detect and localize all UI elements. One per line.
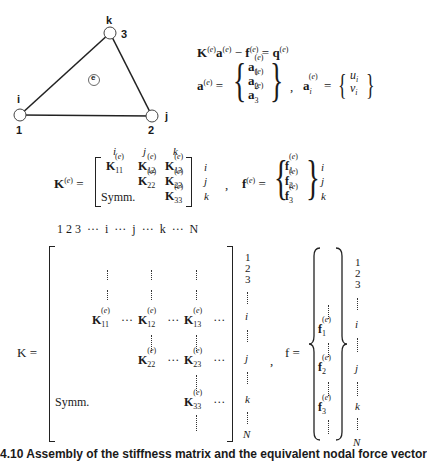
a-e-lhs: a(e) = bbox=[197, 78, 223, 94]
right-brace: } bbox=[270, 58, 283, 104]
K-e-lhs: K(e) = bbox=[54, 176, 84, 192]
node-3-number: 3 bbox=[121, 28, 127, 40]
node-j-letter: j bbox=[165, 110, 168, 122]
K11-entry: K11(e) bbox=[106, 159, 132, 174]
vdots bbox=[357, 418, 359, 430]
vdots bbox=[196, 290, 198, 300]
row-label-N: N bbox=[243, 428, 250, 440]
f-e-vector: f1(e) f2(e) f3(e) bbox=[285, 159, 302, 204]
node-1-number: 1 bbox=[16, 124, 22, 136]
figure-caption: 4.10 Assembly of the stiffness matrix an… bbox=[0, 447, 427, 461]
global-f1: f1(e) bbox=[318, 322, 335, 337]
a-e-vector: a1(e) a2(e) a3(e) bbox=[248, 60, 267, 102]
vdots bbox=[196, 415, 198, 431]
element-label: e bbox=[91, 73, 95, 82]
global-K33: K33(e) ··· bbox=[184, 395, 225, 410]
vdots bbox=[247, 412, 249, 424]
f-lhs: f = bbox=[285, 345, 300, 361]
f-row-label-i: i bbox=[355, 318, 358, 330]
K22-entry: K22(e) bbox=[138, 174, 164, 189]
vdots bbox=[328, 420, 330, 434]
ai-e-vector: uivi bbox=[350, 69, 358, 95]
row-label-i: i bbox=[204, 161, 207, 173]
global-f3: f3(e) bbox=[318, 400, 335, 415]
row-label-j: j bbox=[204, 175, 207, 187]
vdots bbox=[151, 290, 153, 300]
vdots bbox=[196, 270, 198, 280]
global-col-header: 1 2 3 ··· i ··· j ··· k ··· N bbox=[57, 222, 198, 237]
left-brace: { bbox=[338, 69, 347, 99]
global-K22: K22(e) ··· bbox=[138, 353, 179, 368]
node-k-letter: k bbox=[106, 14, 112, 26]
f-row-label-i: i bbox=[321, 161, 324, 173]
row-label-i: i bbox=[245, 310, 248, 322]
right-bracket bbox=[227, 246, 233, 442]
K-lhs: K = bbox=[17, 345, 37, 361]
global-symm-label: Symm. bbox=[55, 395, 89, 410]
vdots bbox=[151, 270, 153, 280]
ai-e-lhs: ai(e) = bbox=[303, 78, 331, 94]
row-label-k: k bbox=[204, 190, 209, 202]
separator-comma: , bbox=[270, 353, 273, 369]
global-K23: K23(e) ··· bbox=[184, 353, 225, 368]
vdots bbox=[107, 290, 109, 300]
global-f2: f2(e) bbox=[318, 360, 335, 375]
K33-entry: K33(e) bbox=[165, 189, 191, 204]
vdots bbox=[107, 270, 109, 280]
node-i-letter: i bbox=[17, 93, 20, 105]
vdots bbox=[357, 338, 359, 352]
row-label-3: 3 bbox=[245, 273, 251, 285]
f-row-label-k: k bbox=[355, 400, 360, 412]
left-brace: { bbox=[233, 58, 246, 104]
f-row-label-j: j bbox=[321, 175, 324, 187]
col-label-j: j bbox=[143, 145, 146, 157]
f-row-label-3: 3 bbox=[355, 278, 361, 290]
f-row-label-k: k bbox=[321, 190, 326, 202]
node-2-number: 2 bbox=[148, 124, 154, 136]
vdots bbox=[357, 298, 359, 310]
row-label-j: j bbox=[245, 352, 248, 364]
f-row-label-j: j bbox=[355, 362, 358, 374]
vdots bbox=[357, 382, 359, 396]
separator-comma: , bbox=[225, 177, 228, 193]
right-brace: } bbox=[306, 154, 320, 202]
vdots bbox=[247, 330, 249, 342]
vdots bbox=[247, 372, 249, 384]
row-label-k: k bbox=[245, 393, 250, 405]
global-K11: K11(e) ··· bbox=[92, 313, 133, 328]
global-K12: K12(e) ··· bbox=[138, 313, 179, 328]
symm-label: Symm. bbox=[101, 190, 135, 205]
vdots bbox=[247, 292, 249, 304]
right-brace: } bbox=[366, 69, 375, 99]
global-K13: K13(e) ··· bbox=[184, 313, 225, 328]
separator-comma: , bbox=[290, 79, 293, 95]
left-bracket bbox=[49, 246, 55, 442]
f-e-lhs: f(e) = bbox=[242, 176, 266, 192]
